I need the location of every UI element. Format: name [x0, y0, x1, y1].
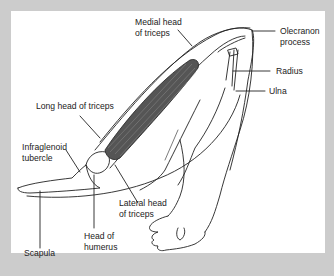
triceps-muscle — [105, 59, 199, 159]
label-olecranon-process: Olecranon process — [280, 26, 320, 47]
label-long-head-of-triceps: Long head of triceps — [36, 101, 114, 112]
label-medial-head-of-triceps: Medial head of triceps — [135, 17, 182, 38]
label-radius: Radius — [276, 66, 303, 77]
label-head-of-humerus: Head of humerus — [84, 231, 117, 252]
label-infraglenoid-tubercle: Infraglenoid tubercle — [22, 142, 67, 163]
label-lateral-head-of-triceps: Lateral head of triceps — [119, 198, 167, 219]
label-scapula: Scapula — [24, 248, 55, 259]
label-ulna: Ulna — [269, 86, 287, 97]
figure-frame: Medial head of triceps Olecranon process… — [0, 0, 334, 276]
